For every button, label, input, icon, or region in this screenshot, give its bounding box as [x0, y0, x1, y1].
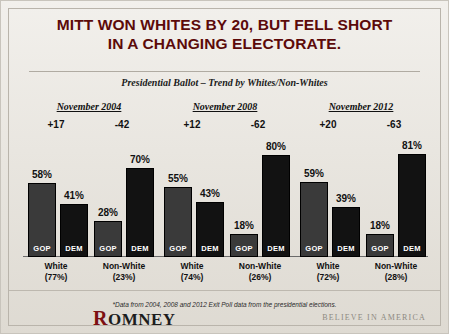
slide-canvas: MITT WON WHITES BY 20, BUT FELL SHORT IN… [0, 0, 449, 334]
bar-value-2008-white-dem: 43% [196, 188, 224, 199]
bar-value-2012-nonwhite-gop: 18% [366, 220, 394, 231]
logo-text: OMNEY [108, 310, 176, 329]
bar-2004-white-gop[interactable]: GOP [28, 183, 56, 257]
bar-label-gop: GOP [95, 244, 121, 253]
bar-label-gop: GOP [301, 244, 327, 253]
bar-2004-white-dem[interactable]: DEM [60, 204, 88, 257]
bar-value-2012-white-gop: 59% [300, 168, 328, 179]
group-header-2004: November 2004 [23, 101, 155, 112]
bar-label-dem: DEM [127, 244, 153, 253]
bar-2004-nonwhite-dem[interactable]: DEM [126, 168, 154, 257]
group-header-2008: November 2008 [159, 101, 291, 112]
bar-label-dem: DEM [333, 244, 359, 253]
romney-logo: ROMNEY [93, 307, 176, 330]
category-line-2: (77%) [23, 272, 89, 283]
bar-2008-nonwhite-dem[interactable]: DEM [262, 155, 290, 257]
category-line-2: (74%) [159, 272, 225, 283]
category-2012-white: White (72%) [295, 261, 361, 283]
category-2008-nonwhite: Non-White (26%) [225, 261, 295, 283]
bar-value-2008-nonwhite-dem: 80% [262, 141, 290, 152]
bar-value-2012-white-dem: 39% [332, 193, 360, 204]
bar-label-dem: DEM [61, 244, 87, 253]
category-2004-nonwhite: Non-White (23%) [89, 261, 159, 283]
bar-value-2004-white-gop: 58% [28, 169, 56, 180]
title-divider [29, 71, 420, 72]
bar-label-gop: GOP [165, 244, 191, 253]
category-2004-white: White (77%) [23, 261, 89, 283]
page-title: MITT WON WHITES BY 20, BUT FELL SHORT IN… [17, 15, 432, 53]
bar-value-2012-nonwhite-dem: 81% [398, 140, 426, 151]
category-2008-white: White (74%) [159, 261, 225, 283]
title-line-1: MITT WON WHITES BY 20, BUT FELL SHORT [17, 15, 432, 34]
category-line-1: White [23, 261, 89, 272]
bar-2012-nonwhite-dem[interactable]: DEM [398, 154, 426, 257]
bar-label-dem: DEM [399, 244, 425, 253]
chart-subtitle: Presidential Ballot – Trend by Whites/No… [17, 77, 432, 88]
bar-2012-white-gop[interactable]: GOP [300, 182, 328, 257]
category-line-2: (26%) [225, 272, 295, 283]
category-line-1: White [159, 261, 225, 272]
bar-value-2004-white-dem: 41% [60, 190, 88, 201]
category-line-2: (28%) [361, 272, 431, 283]
bar-2008-white-dem[interactable]: DEM [196, 202, 224, 257]
category-line-1: Non-White [361, 261, 431, 272]
bar-label-gop: GOP [29, 244, 55, 253]
category-line-2: (72%) [295, 272, 361, 283]
bar-value-2008-white-gop: 55% [164, 173, 192, 184]
title-line-2: IN A CHANGING ELECTORATE. [17, 34, 432, 53]
bar-value-2008-nonwhite-gop: 18% [230, 220, 258, 231]
bar-label-dem: DEM [263, 244, 289, 253]
logo-initial: R [93, 307, 108, 329]
group-header-2012: November 2012 [295, 101, 427, 112]
bar-2012-nonwhite-gop[interactable]: GOP [366, 234, 394, 257]
category-line-1: White [295, 261, 361, 272]
bar-2008-white-gop[interactable]: GOP [164, 187, 192, 257]
bar-label-dem: DEM [197, 244, 223, 253]
bar-chart-plot: 58% GOP 41% DEM 28% GOP 70% DEM 55% GOP … [23, 129, 428, 257]
bar-value-2004-nonwhite-gop: 28% [94, 207, 122, 218]
category-2012-nonwhite: Non-White (28%) [361, 261, 431, 283]
bar-2012-white-dem[interactable]: DEM [332, 207, 360, 257]
bar-2008-nonwhite-gop[interactable]: GOP [230, 234, 258, 257]
bar-value-2004-nonwhite-dem: 70% [126, 154, 154, 165]
bar-2004-nonwhite-gop[interactable]: GOP [94, 221, 122, 257]
category-line-1: Non-White [89, 261, 159, 272]
bar-label-gop: GOP [231, 244, 257, 253]
campaign-tagline: BELIEVE IN AMERICA [322, 313, 426, 322]
bar-label-gop: GOP [367, 244, 393, 253]
category-line-2: (23%) [89, 272, 159, 283]
category-line-1: Non-White [225, 261, 295, 272]
